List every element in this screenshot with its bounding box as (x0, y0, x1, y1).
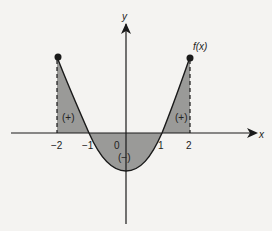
tick-label-1: 1 (158, 140, 164, 151)
sign-label-left: (+) (62, 112, 75, 123)
tick-label-neg2: −2 (51, 140, 63, 151)
x-axis-label: x (258, 129, 265, 140)
y-axis-label: y (121, 11, 128, 22)
endpoint-right (187, 55, 194, 62)
tick-label-0: 0 (114, 140, 120, 151)
function-graph: y x f(x) −2 −1 0 1 2 (+) (−) (+) (0, 0, 272, 231)
sign-label-right: (+) (175, 112, 188, 123)
endpoint-left (55, 54, 62, 61)
tick-label-neg1: −1 (82, 140, 94, 151)
tick-label-2: 2 (186, 140, 192, 151)
sign-label-middle: (−) (118, 152, 131, 163)
function-label: f(x) (193, 41, 207, 52)
